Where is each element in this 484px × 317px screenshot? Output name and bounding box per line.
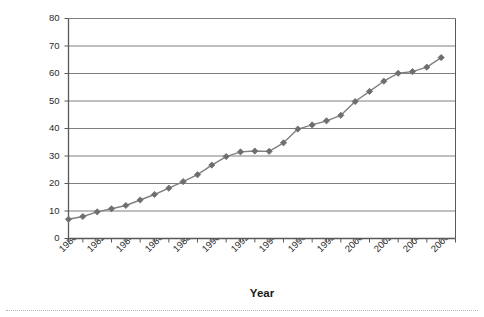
- line-chart-plot: [0, 0, 484, 317]
- footer-divider: [6, 310, 478, 312]
- chart-figure: Cost (billions of dollars) Year 01020304…: [0, 0, 484, 317]
